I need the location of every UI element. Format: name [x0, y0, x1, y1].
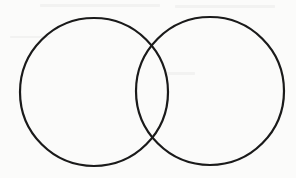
- circle-set-b: [136, 17, 284, 165]
- venn-diagram-svg: [0, 0, 296, 178]
- background-texture: [10, 4, 275, 75]
- venn-diagram: [0, 0, 296, 178]
- circle-set-a: [20, 18, 168, 166]
